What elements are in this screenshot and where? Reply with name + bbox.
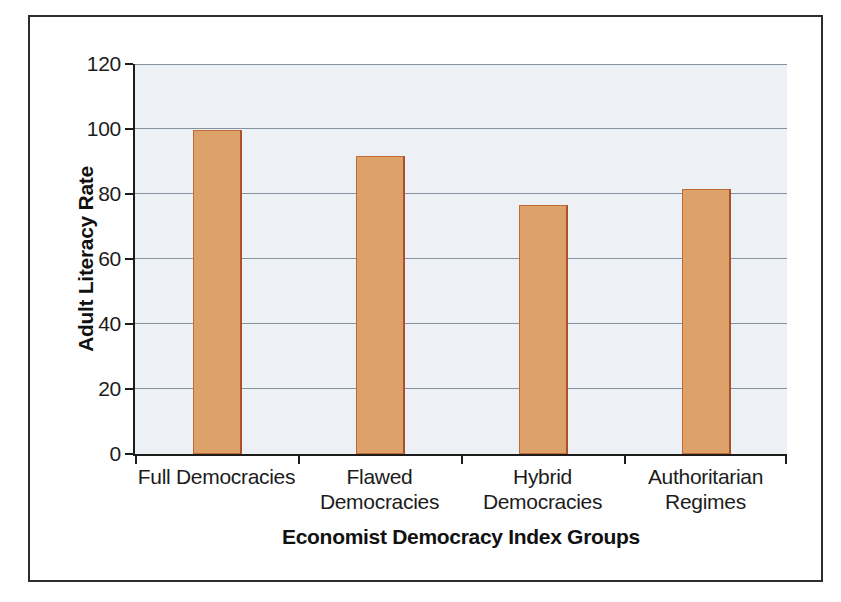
bar-3 [682, 189, 731, 454]
x-axis-tick-1 [298, 456, 300, 464]
y-axis-title: Adult Literacy Rate [73, 109, 99, 409]
bar-2 [519, 205, 568, 454]
chart-figure: 020406080100120Full DemocraciesFlawed De… [0, 0, 841, 602]
x-axis-tick-4 [785, 456, 787, 464]
y-axis-tick-60 [125, 258, 133, 260]
y-axis-tick-120 [125, 63, 133, 65]
x-category-label-0: Full Democracies [135, 464, 298, 489]
x-axis-tick-0 [135, 456, 137, 464]
x-axis-tick-3 [624, 456, 626, 464]
x-category-label-2: Hybrid Democracies [461, 464, 624, 514]
y-axis-tick-80 [125, 193, 133, 195]
y-axis-tick-0 [125, 453, 133, 455]
plot-area [133, 64, 787, 456]
x-category-label-3: Authoritarian Regimes [624, 464, 787, 514]
bar-0 [193, 130, 242, 454]
x-category-label-1: Flawed Democracies [298, 464, 461, 514]
bar-1 [356, 156, 405, 454]
x-axis-tick-2 [461, 456, 463, 464]
y-axis-tick-100 [125, 128, 133, 130]
y-tick-label-0: 0 [69, 441, 121, 467]
x-axis-title: Economist Democracy Index Groups [211, 524, 711, 550]
gridline-120 [135, 64, 787, 65]
y-tick-label-120: 120 [69, 51, 121, 77]
y-axis-tick-20 [125, 388, 133, 390]
gridline-100 [135, 128, 787, 129]
y-axis-tick-40 [125, 323, 133, 325]
